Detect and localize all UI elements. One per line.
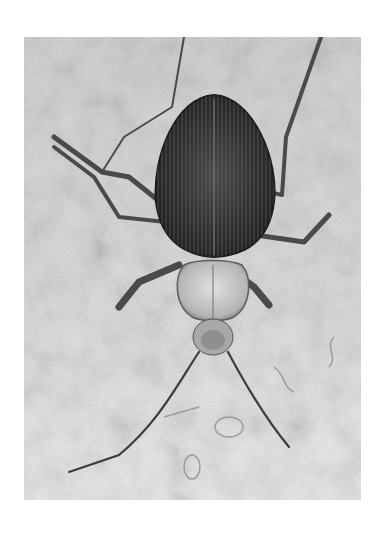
pronotum [177, 261, 248, 321]
head [193, 319, 233, 355]
beetle-photograph: Beetle (top-down view) on textured surfa… [24, 37, 361, 500]
